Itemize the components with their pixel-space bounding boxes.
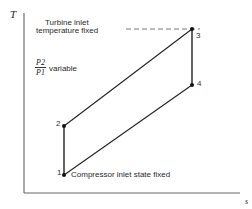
turbine-annotation-line2: temperature fixed: [36, 26, 98, 35]
point-label-1: 1: [57, 168, 61, 177]
pressure-ratio-denominator: P1: [35, 68, 46, 77]
process-2-3: [64, 29, 192, 126]
state-point-4: [190, 83, 194, 87]
state-point-2: [62, 124, 66, 128]
point-label-2: 2: [56, 119, 60, 128]
compressor-annotation: Compressor inlet state fixed: [71, 170, 170, 179]
state-point-3: [190, 27, 194, 31]
x-axis-label: s: [245, 197, 248, 206]
point-label-3: 3: [196, 31, 200, 40]
pressure-ratio-numerator: P2: [35, 58, 46, 68]
process-4-1: [64, 85, 192, 175]
pressure-ratio-fraction: P2 P1: [35, 58, 46, 77]
y-axis-label: T: [10, 8, 16, 20]
pressure-ratio-text: variable: [49, 64, 77, 73]
point-label-4: 4: [197, 79, 201, 88]
state-point-1: [62, 173, 66, 177]
